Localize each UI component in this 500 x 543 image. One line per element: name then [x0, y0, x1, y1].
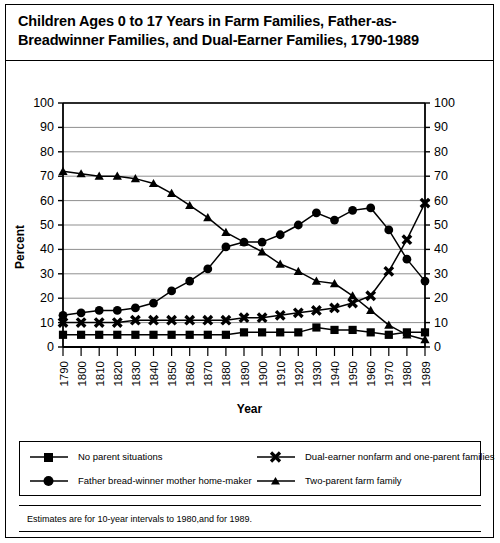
ytick-label-left-0: 0 [47, 340, 54, 354]
series-3-point-1880 [222, 331, 230, 339]
xtick-label-1830: 1830 [130, 361, 142, 387]
title-panel: Children Ages 0 to 17 Years in Farm Fami… [6, 5, 493, 61]
series-1-point-1820 [113, 306, 122, 315]
ytick-label-left-30: 30 [40, 267, 54, 281]
series-3-point-1940 [330, 326, 338, 334]
chart-panel: Percent Year 001010202030304040505060607… [6, 62, 493, 434]
xtick-label-1890: 1890 [239, 361, 251, 387]
xtick-label-1960: 1960 [365, 361, 377, 387]
legend-item-dual-earner: Dual-earner nonfarm and one-parent famil… [255, 451, 495, 463]
series-1-point-1850 [167, 286, 176, 295]
ytick-label-left-80: 80 [40, 145, 54, 159]
ytick-label-right-60: 60 [434, 194, 448, 208]
ytick-label-left-90: 90 [40, 120, 54, 134]
series-3-point-1970 [385, 331, 393, 339]
circle-marker-icon [28, 475, 70, 487]
series-1-point-1880 [222, 243, 231, 252]
xtick-label-1920: 1920 [293, 361, 305, 387]
legend-item-no-parent: No parent situations [28, 451, 163, 463]
ytick-label-right-70: 70 [434, 169, 448, 183]
xtick-label-1980: 1980 [401, 361, 413, 387]
series-1-point-1810 [95, 306, 104, 315]
xtick-label-1790: 1790 [58, 361, 70, 387]
series-3-point-1790 [59, 331, 67, 339]
legend-item-two-parent-farm: Two-parent farm family [255, 475, 402, 487]
line-chart: 0010102020303040405050606070708080909010… [6, 62, 493, 434]
series-1-point-1830 [131, 304, 140, 313]
xtick-label-1870: 1870 [202, 361, 214, 387]
series-1-point-1970 [384, 225, 393, 234]
series-1-point-1980 [403, 255, 412, 264]
xtick-label-1800: 1800 [76, 361, 88, 387]
series-3-point-1980 [403, 328, 411, 336]
cross-marker-icon [255, 451, 297, 463]
page-title: Children Ages 0 to 17 Years in Farm Fami… [18, 12, 481, 50]
series-1-point-1910 [276, 230, 285, 239]
series-1-point-1890 [240, 238, 249, 247]
series-3-point-1840 [149, 331, 157, 339]
series-3-point-1800 [77, 331, 85, 339]
series-1-point-1800 [77, 308, 86, 317]
xtick-label-1930: 1930 [311, 361, 323, 387]
series-3-point-1820 [113, 331, 121, 339]
ytick-label-right-50: 50 [434, 218, 448, 232]
series-3-point-1870 [204, 331, 212, 339]
series-1-point-1989 [421, 277, 430, 286]
series-3-point-1930 [312, 323, 320, 331]
series-1-point-1860 [185, 277, 194, 286]
series-3-point-1960 [367, 328, 375, 336]
series-3-point-1920 [294, 328, 302, 336]
footnote-text: Estimates are for 10-year intervals to 1… [27, 514, 252, 524]
ytick-label-right-0: 0 [434, 340, 441, 354]
series-3-point-1810 [95, 331, 103, 339]
xtick-label-1840: 1840 [148, 361, 160, 387]
xtick-label-1820: 1820 [112, 361, 124, 387]
series-1-point-1960 [366, 204, 375, 213]
series-1-point-1950 [348, 206, 357, 215]
ytick-label-right-80: 80 [434, 145, 448, 159]
legend-label: Dual-earner nonfarm and one-parent famil… [305, 451, 495, 463]
xtick-label-1860: 1860 [184, 361, 196, 387]
series-3-point-1950 [349, 326, 357, 334]
series-3-point-1860 [186, 331, 194, 339]
chart-legend: No parent situations Father bread-winner… [19, 441, 481, 496]
ytick-label-left-20: 20 [40, 291, 54, 305]
ytick-label-right-10: 10 [434, 316, 448, 330]
legend-label: Father bread-winner mother home-maker [78, 475, 252, 487]
legend-label: Two-parent farm family [305, 475, 402, 487]
series-3-point-1830 [131, 331, 139, 339]
series-1-point-1920 [294, 221, 303, 230]
legend-label: No parent situations [78, 451, 163, 463]
series-1-point-1940 [330, 216, 339, 225]
ytick-label-left-70: 70 [40, 169, 54, 183]
ytick-label-right-30: 30 [434, 267, 448, 281]
xtick-label-1940: 1940 [329, 361, 341, 387]
xtick-label-1989: 1989 [420, 361, 432, 387]
series-1-point-1930 [312, 208, 321, 217]
footnote-panel: Estimates are for 10-year intervals to 1… [19, 505, 481, 532]
series-1-point-1900 [258, 238, 267, 247]
series-3-point-1850 [168, 331, 176, 339]
series-3-point-1900 [258, 328, 266, 336]
xtick-label-1970: 1970 [383, 361, 395, 387]
xtick-label-1880: 1880 [220, 361, 232, 387]
series-3-point-1989 [421, 328, 429, 336]
xtick-label-1810: 1810 [94, 361, 106, 387]
ytick-label-right-40: 40 [434, 242, 448, 256]
ytick-label-left-10: 10 [40, 316, 54, 330]
series-3-point-1890 [240, 328, 248, 336]
legend-item-father-breadwinner: Father bread-winner mother home-maker [28, 475, 252, 487]
series-1-point-1870 [203, 265, 212, 274]
square-marker-icon [28, 451, 70, 463]
ytick-label-right-20: 20 [434, 291, 448, 305]
series-1-point-1840 [149, 299, 158, 308]
xtick-label-1910: 1910 [275, 361, 287, 387]
chart-page: Children Ages 0 to 17 Years in Farm Fami… [0, 0, 500, 543]
ytick-label-right-90: 90 [434, 120, 448, 134]
triangle-marker-icon [255, 475, 297, 487]
ytick-label-left-60: 60 [40, 194, 54, 208]
xtick-label-1900: 1900 [257, 361, 269, 387]
ytick-label-left-40: 40 [40, 242, 54, 256]
series-3-point-1910 [276, 328, 284, 336]
ytick-label-right-100: 100 [434, 96, 455, 110]
